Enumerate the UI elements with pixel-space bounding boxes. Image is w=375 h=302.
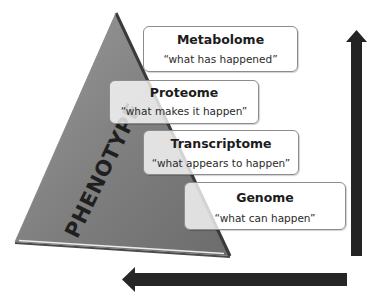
arrows-layer [0,0,375,302]
arrow-left-icon [122,267,347,292]
arrow-up-icon [346,30,367,256]
omics-diagram: PHENOTYPE Metabolome “what has happened”… [0,0,375,302]
